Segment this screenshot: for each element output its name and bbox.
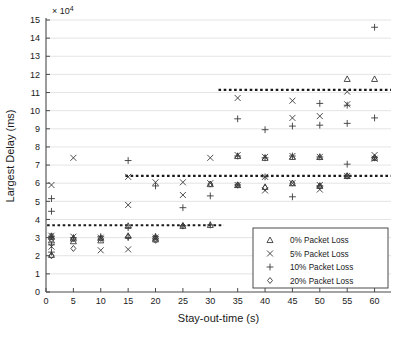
data-point-s2-30 xyxy=(344,120,351,127)
data-point-s2-1 xyxy=(48,208,55,215)
x-tick-label-55: 55 xyxy=(342,296,352,306)
data-point-s1-23 xyxy=(289,115,295,121)
x-tick-label-25: 25 xyxy=(178,296,188,306)
data-point-s2-29 xyxy=(344,102,351,109)
y-tick-label-10: 10 xyxy=(30,106,40,116)
figure-container: 0123456789101112131415051015202530354045… xyxy=(0,0,404,345)
x-tick-label-30: 30 xyxy=(205,296,215,306)
x-tick-label-0: 0 xyxy=(43,296,48,306)
data-point-s0-22 xyxy=(344,76,350,82)
y-axis-exponent-label: × 104 xyxy=(52,5,74,16)
data-point-s2-24 xyxy=(289,193,296,200)
data-point-s1-13 xyxy=(180,192,186,198)
x-tick-label-20: 20 xyxy=(151,296,161,306)
y-tick-label-15: 15 xyxy=(30,15,40,25)
x-axis-title: Stay-out-time (s) xyxy=(178,312,259,324)
data-point-s1-14 xyxy=(207,155,213,161)
x-tick-label-60: 60 xyxy=(370,296,380,306)
data-point-s2-31 xyxy=(344,161,351,168)
data-point-s1-3 xyxy=(70,155,76,161)
legend-label-3: 20% Packet Loss xyxy=(290,277,353,286)
x-tick-label-10: 10 xyxy=(96,296,106,306)
y-tick-label-3: 3 xyxy=(35,233,40,243)
x-tick-label-45: 45 xyxy=(287,296,297,306)
data-point-s3-4 xyxy=(71,245,76,251)
y-tick-label-11: 11 xyxy=(31,88,40,98)
y-tick-label-1: 1 xyxy=(35,269,40,279)
data-point-s1-12 xyxy=(180,179,186,185)
data-point-s1-30 xyxy=(344,89,350,95)
data-point-s2-14 xyxy=(207,192,214,199)
y-tick-label-7: 7 xyxy=(35,160,40,170)
y-tick-label-14: 14 xyxy=(30,33,40,43)
y-tick-label-0: 0 xyxy=(35,287,40,297)
y-tick-label-4: 4 xyxy=(35,215,40,225)
y-tick-label-2: 2 xyxy=(35,251,40,261)
legend-label-2: 10% Packet Loss xyxy=(290,263,353,272)
legend-label-1: 5% Packet Loss xyxy=(290,250,349,259)
legend-label-0: 0% Packet Loss xyxy=(290,236,349,245)
data-point-s1-6 xyxy=(98,247,104,253)
data-point-s2-34 xyxy=(371,115,378,122)
x-tick-label-5: 5 xyxy=(71,296,76,306)
data-point-s1-9 xyxy=(125,246,131,252)
y-tick-label-13: 13 xyxy=(30,51,40,61)
x-tick-label-35: 35 xyxy=(233,296,243,306)
scatter-chart: 0123456789101112131415051015202530354045… xyxy=(0,0,404,345)
y-axis-title: Largest Delay (ms) xyxy=(4,110,16,203)
data-point-s2-26 xyxy=(316,122,323,129)
x-tick-label-40: 40 xyxy=(260,296,270,306)
data-point-s1-26 xyxy=(317,113,323,119)
data-point-s2-12 xyxy=(180,204,187,211)
y-tick-label-9: 9 xyxy=(35,124,40,134)
data-point-s0-24 xyxy=(372,76,378,82)
x-tick-label-50: 50 xyxy=(315,296,325,306)
y-tick-label-8: 8 xyxy=(35,142,40,152)
data-point-s1-22 xyxy=(289,98,295,104)
y-tick-label-5: 5 xyxy=(35,197,40,207)
data-point-s1-8 xyxy=(125,202,131,208)
y-tick-label-6: 6 xyxy=(35,178,40,188)
y-tick-label-12: 12 xyxy=(30,70,40,80)
data-point-s2-33 xyxy=(371,24,378,31)
data-point-s2-25 xyxy=(316,100,323,107)
data-point-s2-7 xyxy=(125,157,132,164)
x-tick-label-15: 15 xyxy=(123,296,133,306)
data-point-s2-19 xyxy=(262,126,269,133)
data-point-s2-16 xyxy=(234,115,241,122)
data-point-s1-16 xyxy=(235,95,241,101)
